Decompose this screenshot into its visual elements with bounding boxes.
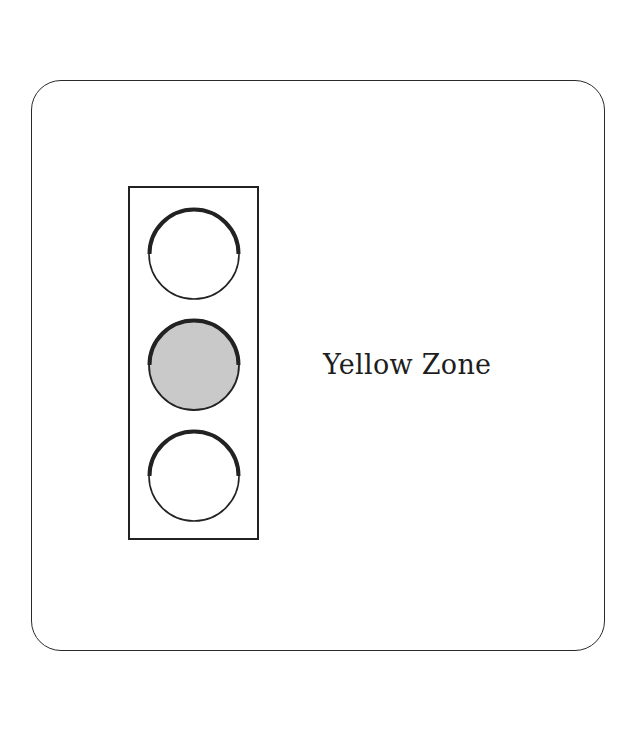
light-middle-icon: [146, 317, 242, 413]
light-top-icon: [146, 206, 242, 302]
zone-label: Yellow Zone: [323, 349, 491, 380]
zone-card: [31, 80, 605, 651]
light-bottom-icon: [146, 428, 242, 524]
